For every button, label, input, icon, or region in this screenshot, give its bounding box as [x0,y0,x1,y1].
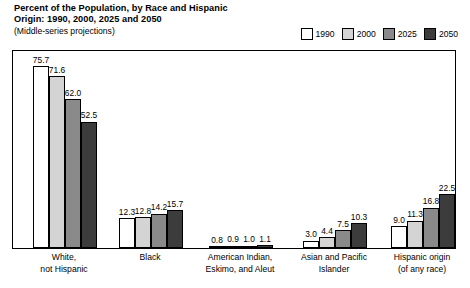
bars-container: 75.771.662.052.512.312.814.215.70.80.91.… [13,51,455,248]
category-axis-labels: White,not HispanicBlackAmerican Indian,E… [12,252,456,286]
legend-swatch-icon [342,28,354,40]
bar-slot: 11.3 [407,51,423,248]
bar-value-label: 4.4 [321,227,333,235]
bar-value-label: 52.5 [81,111,97,119]
bar-slot: 4.4 [319,51,335,248]
category-label: Black [139,252,160,264]
bar[interactable] [335,230,351,248]
bar-value-label: 22.5 [439,184,455,192]
bar-slot: 0.9 [225,51,241,248]
bar-slot: 3.0 [303,51,319,248]
legend-label: 2050 [439,30,458,39]
bar-slot: 62.0 [65,51,81,248]
bar-value-label: 3.0 [305,230,317,238]
chart-header: Percent of the Population, by Race and H… [0,0,470,50]
bar-group: 12.312.814.215.7 [119,51,183,248]
bar-value-label: 75.7 [33,56,49,64]
bar-value-label: 11.3 [407,210,423,218]
legend-entry: 1990 [301,28,335,40]
bar-slot: 12.3 [119,51,135,248]
category-label: White,not Hispanic [40,252,87,275]
bar-value-label: 12.3 [119,208,135,216]
bar-value-label: 14.2 [151,203,167,211]
category-label-line: Black [139,252,160,264]
bar-group: 0.80.91.01.1 [209,51,273,248]
bar-slot: 22.5 [439,51,455,248]
bar-slot: 0.8 [209,51,225,248]
bar[interactable] [257,245,273,248]
bar[interactable] [225,246,241,248]
plot-area: 75.771.662.052.512.312.814.215.70.80.91.… [12,50,456,249]
bar[interactable] [81,122,97,248]
bar-value-label: 12.8 [135,207,151,215]
category-label: Hispanic origin(of any race) [394,252,450,275]
bar-slot: 1.1 [257,51,273,248]
bar[interactable] [303,241,319,248]
bar-slot: 15.7 [167,51,183,248]
bar-slot: 75.7 [33,51,49,248]
bar-value-label: 15.7 [167,200,183,208]
legend-swatch-icon [383,28,395,40]
bar[interactable] [151,214,167,248]
bar-slot: 16.8 [423,51,439,248]
bar-group: 75.771.662.052.5 [33,51,97,248]
chart-subtitle: (Middle-series projections) [14,26,115,36]
bar[interactable] [439,194,455,248]
category-label: Asian and PacificIslander [301,252,367,275]
bar[interactable] [49,76,65,248]
bar-slot: 52.5 [81,51,97,248]
bar[interactable] [135,217,151,248]
bar[interactable] [241,246,257,248]
bar[interactable] [319,237,335,248]
bar[interactable] [407,221,423,248]
bar-value-label: 1.0 [243,235,255,243]
bar-slot: 7.5 [335,51,351,248]
chart-legend: 1990200020252050 [301,28,459,40]
bar[interactable] [65,99,81,248]
bar-value-label: 10.3 [351,213,367,221]
bar-value-label: 71.6 [49,66,65,74]
category-label-line: (of any race) [394,264,450,276]
bar-value-label: 0.9 [227,235,239,243]
legend-entry: 2050 [424,28,458,40]
category-label-line: Eskimo, and Aleut [206,264,275,276]
bar[interactable] [209,246,225,248]
chart-figure: Percent of the Population, by Race and H… [0,0,470,288]
legend-label: 2025 [398,30,417,39]
bar-value-label: 7.5 [337,220,349,228]
bar[interactable] [33,66,49,248]
bar-slot: 10.3 [351,51,367,248]
category-label-line: American Indian, [206,252,275,264]
bar-group: 9.011.316.822.5 [391,51,455,248]
category-label: American Indian,Eskimo, and Aleut [206,252,275,275]
bar-value-label: 0.8 [211,236,223,244]
bar-value-label: 16.8 [423,197,439,205]
bar-value-label: 62.0 [65,89,81,97]
bar[interactable] [167,210,183,248]
category-label-line: not Hispanic [40,264,87,276]
bar-value-label: 1.1 [259,235,271,243]
bar-value-label: 9.0 [393,216,405,224]
legend-swatch-icon [424,28,436,40]
bar-slot: 12.8 [135,51,151,248]
bar-slot: 9.0 [391,51,407,248]
category-label-line: Asian and Pacific [301,252,367,264]
bar[interactable] [391,226,407,248]
bar[interactable] [423,208,439,248]
bar-group: 3.04.47.510.3 [303,51,367,248]
chart-title-line-1: Percent of the Population, by Race and H… [14,3,228,13]
category-label-line: Hispanic origin [394,252,450,264]
legend-label: 1990 [316,30,335,39]
legend-label: 2000 [357,30,376,39]
bar-slot: 1.0 [241,51,257,248]
category-label-line: White, [40,252,87,264]
legend-entry: 2000 [342,28,376,40]
bar-slot: 14.2 [151,51,167,248]
legend-swatch-icon [301,28,313,40]
category-label-line: Islander [301,264,367,276]
chart-title-line-2: Origin: 1990, 2000, 2025 and 2050 [14,14,162,24]
bar[interactable] [119,218,135,248]
bar[interactable] [351,223,367,248]
legend-entry: 2025 [383,28,417,40]
bar-slot: 71.6 [49,51,65,248]
